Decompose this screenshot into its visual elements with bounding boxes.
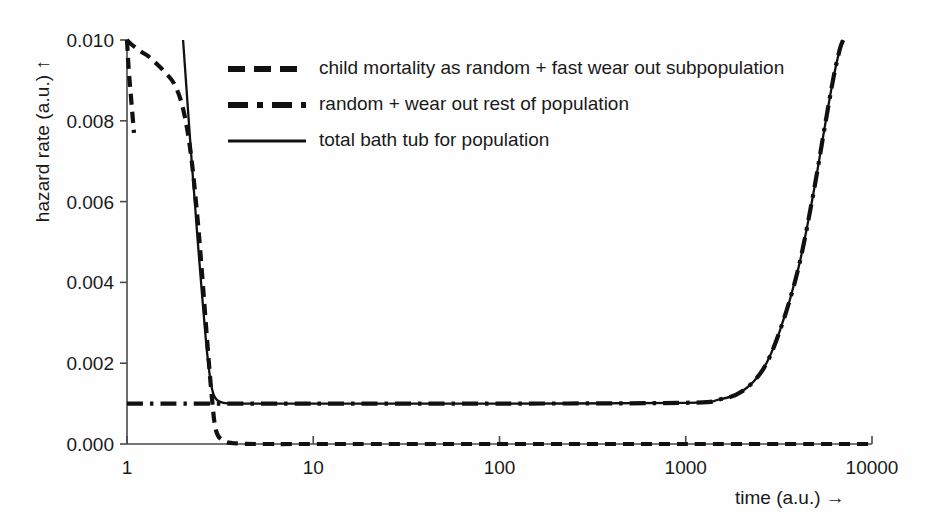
legend-label: random + wear out rest of population: [319, 94, 629, 113]
legend-item: random + wear out rest of population: [228, 92, 784, 114]
chart-legend: child mortality as random + fast wear ou…: [228, 56, 784, 150]
legend-line-dash-dot-icon: [228, 97, 306, 109]
legend-line-solid-icon: [228, 133, 306, 145]
legend-item: child mortality as random + fast wear ou…: [228, 56, 784, 78]
legend-line-dashed-icon: [228, 61, 306, 73]
legend-label: total bath tub for population: [319, 130, 549, 149]
legend-item: total bath tub for population: [228, 128, 784, 150]
series-curve-3: [127, 40, 134, 133]
chart-figure: hazard rate (a.u.) ↑ 0.0000.0020.0040.00…: [0, 0, 945, 532]
legend-label: child mortality as random + fast wear ou…: [319, 58, 784, 77]
